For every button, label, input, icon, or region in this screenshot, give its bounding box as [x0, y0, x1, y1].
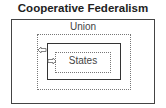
arrows — [0, 0, 166, 108]
arrow-right-icon — [48, 58, 56, 64]
arrow-left-icon — [38, 47, 46, 53]
